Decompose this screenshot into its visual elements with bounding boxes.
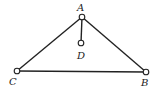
node-b-joint	[143, 69, 149, 75]
node-a-joint	[79, 14, 85, 20]
edge-a-b	[82, 17, 146, 72]
label-d: D	[76, 50, 85, 61]
label-c: C	[9, 76, 17, 87]
node-c-joint	[14, 68, 20, 74]
edge-a-c	[17, 17, 82, 71]
edge-c-b	[17, 71, 146, 72]
truss-diagram: A D C B	[0, 0, 157, 89]
edge-a-d	[81, 17, 82, 43]
label-b: B	[140, 77, 148, 88]
label-a: A	[76, 2, 84, 13]
node-d-joint	[78, 40, 84, 46]
